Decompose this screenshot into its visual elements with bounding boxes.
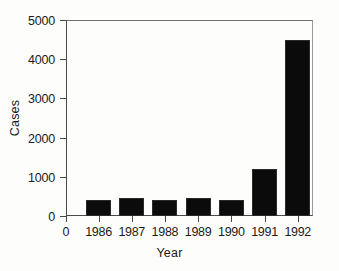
y-axis-tick-label-2000: 2000	[28, 132, 55, 146]
x-axis-tick-1988	[165, 216, 166, 222]
y-axis-tick-label-3000: 3000	[28, 92, 55, 106]
y-axis-tick-4000: 4000	[60, 59, 66, 60]
x-axis-tick-label-1988: 1988	[152, 225, 179, 239]
x-axis-tick-1990	[231, 216, 232, 222]
x-axis-tick-1992	[298, 216, 299, 222]
x-axis-tick-label-1987: 1987	[118, 225, 145, 239]
y-axis-tick-2000: 2000	[60, 138, 66, 139]
x-axis-tick-label-1992: 1992	[284, 225, 311, 239]
y-axis-tick-label-1000: 1000	[28, 171, 55, 185]
x-axis-tick-label-1990: 1990	[218, 225, 245, 239]
x-axis-tick-label-1989: 1989	[185, 225, 212, 239]
x-axis-tick-1989	[198, 216, 199, 222]
y-axis-tick-label-4000: 4000	[28, 53, 55, 67]
bar-1991	[252, 169, 277, 216]
x-axis-tick-1991	[265, 216, 266, 222]
x-axis-title: Year	[0, 246, 339, 260]
bar-1988	[152, 200, 177, 216]
bar-1986	[86, 200, 111, 216]
y-axis-tick-3000: 3000	[60, 98, 66, 99]
y-axis-tick-1000: 1000	[60, 177, 66, 178]
x-axis-tick-label-1986: 1986	[85, 225, 112, 239]
bar-chart-figure: 010002000300040005000 0 1986198719881989…	[0, 0, 339, 271]
x-axis-origin-tick	[66, 213, 67, 222]
x-axis-origin-label: 0	[63, 225, 70, 239]
x-axis-tick-1986	[99, 216, 100, 222]
bar-1987	[119, 198, 144, 216]
x-axis-tick-label-1991: 1991	[251, 225, 278, 239]
bar-1990	[219, 200, 244, 216]
y-axis-tick-label-5000: 5000	[28, 14, 55, 28]
y-axis-tick-5000: 5000	[60, 20, 66, 21]
bars-group	[66, 20, 313, 216]
y-axis-title: Cases	[6, 20, 24, 216]
bar-1989	[186, 198, 211, 216]
x-axis-tick-1987	[132, 216, 133, 222]
bar-1992	[285, 40, 310, 216]
y-axis-tick-label-0: 0	[48, 210, 55, 224]
